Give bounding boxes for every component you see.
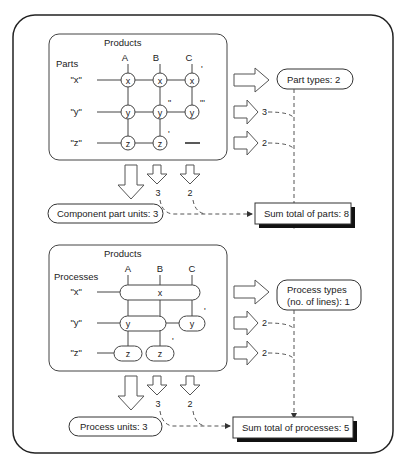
svg-text:x: x (190, 76, 195, 86)
svg-text:x: x (126, 76, 131, 86)
col-c-count: 2 (187, 399, 192, 409)
row-y-count: 2 (262, 318, 267, 328)
sum-total-processes-label: Sum total of processes: 5 (242, 422, 349, 433)
col-b-count: 3 (155, 188, 160, 198)
process-x-all: x (120, 285, 200, 300)
process-types-label-line1: Process types (287, 284, 347, 295)
svg-text:z: z (126, 349, 131, 359)
svg-text:z: z (126, 139, 131, 149)
svg-text:y: y (126, 108, 131, 118)
parts-processes-diagram: Products Parts A B C "x" "y" "z" x x x' … (0, 0, 404, 466)
svg-text:z: z (158, 349, 163, 359)
process-units-label: Process units: 3 (80, 421, 148, 432)
node-a-y: y (121, 105, 135, 119)
process-y-ab: y (120, 316, 166, 331)
svg-text:x: x (158, 288, 163, 298)
column-c-label: C (186, 52, 193, 63)
products-label: Products (104, 37, 142, 48)
node-a-x: x (121, 73, 135, 87)
process-types-label-line2: (no. of lines): 1 (287, 296, 350, 307)
svg-text:': ' (204, 306, 206, 316)
sum-total-parts-label: Sum total of parts: 8 (264, 208, 349, 219)
svg-text:y: y (190, 319, 195, 329)
svg-text:x: x (158, 76, 163, 86)
svg-text:y: y (126, 319, 131, 329)
row-z-count: 2 (262, 138, 267, 148)
column-b-label: B (153, 52, 159, 63)
row-y-count: 3 (262, 107, 267, 117)
col-b-count: 3 (155, 399, 160, 409)
svg-text:"': "' (200, 98, 205, 108)
part-types-label: Part types: 2 (287, 74, 340, 85)
svg-text:y: y (158, 108, 163, 118)
svg-text:': ' (201, 64, 203, 74)
row-z-label: "z" (71, 137, 83, 148)
svg-text:': ' (172, 336, 174, 346)
row-x-label: "x" (71, 286, 83, 297)
row-z-count: 2 (262, 348, 267, 358)
processes-label: Processes (54, 271, 99, 282)
parts-label: Parts (56, 58, 78, 69)
svg-text:z: z (158, 139, 163, 149)
column-b-label: B (157, 263, 163, 274)
row-x-label: "x" (71, 74, 83, 85)
svg-text:y: y (190, 108, 195, 118)
column-a-label: A (125, 263, 132, 274)
column-a-label: A (122, 52, 129, 63)
row-y-label: "y" (71, 317, 83, 328)
node-b-x: x (153, 73, 167, 87)
component-part-units-label: Component part units: 3 (57, 208, 158, 219)
row-z-label: "z" (71, 347, 83, 358)
svg-text:': ' (168, 129, 170, 139)
process-z-a: z (114, 346, 142, 361)
svg-text:": " (168, 98, 171, 108)
products-label: Products (104, 248, 142, 259)
node-a-z: z (121, 136, 135, 150)
row-y-label: "y" (71, 106, 83, 117)
column-c-label: C (189, 263, 196, 274)
col-c-count: 2 (187, 188, 192, 198)
